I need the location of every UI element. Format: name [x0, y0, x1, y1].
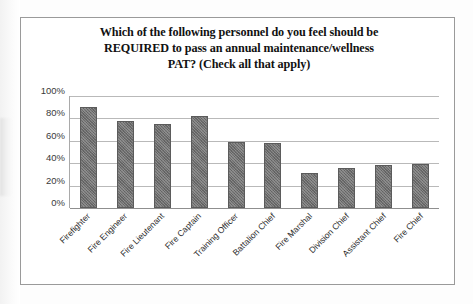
y-tick-label-60: 60%	[23, 129, 65, 140]
x-axis-category-labels: Firefighter Fire Engineer Fire Lieutenan…	[69, 209, 438, 279]
plot-wrapper: 100% 80% 60% 40% 20% 0%	[21, 18, 456, 286]
y-tick-label-80: 80%	[23, 107, 65, 118]
x-slot-8: Assistant Chief	[364, 209, 401, 279]
bar-slot-firefighter	[70, 96, 107, 208]
y-axis-tick-labels: 100% 80% 60% 40% 20% 0%	[23, 90, 65, 202]
y-tick-label-100: 100%	[23, 85, 65, 96]
bar-firefighter[interactable]	[80, 107, 97, 208]
bar-fire-captain[interactable]	[191, 116, 208, 208]
bar-fire-lieutenant[interactable]	[154, 124, 171, 208]
chart-figure-frame: Which of the following personnel do you …	[20, 17, 455, 285]
bar-training-officer[interactable]	[228, 142, 245, 208]
x-slot-9: Fire Chief	[401, 209, 438, 279]
y-tick-label-20: 20%	[23, 174, 65, 185]
bar-fire-engineer[interactable]	[117, 121, 134, 208]
y-tick-label-40: 40%	[23, 152, 65, 163]
scan-artifact-smudge	[0, 118, 12, 196]
y-tick-label-0: 0%	[23, 197, 65, 208]
